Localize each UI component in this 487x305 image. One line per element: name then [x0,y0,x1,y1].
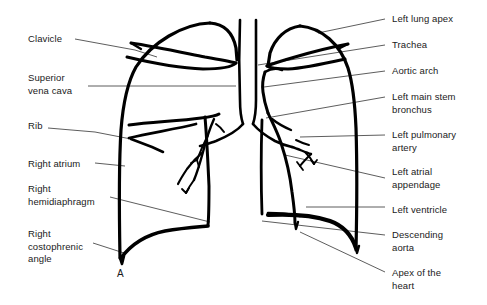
label-apex-of-the-heart: Apex of the heart [392,267,441,292]
left-hemidiaphragm [268,215,356,248]
label-left-ventricle: Left ventricle [392,204,447,217]
right-pa-branch-tips [182,188,189,193]
label-right-costophrenic-angle: Right costophrenic angle [28,228,83,266]
right-hilum-spur [216,124,224,132]
leader-apex-of-the-heart [300,232,385,272]
label-trachea: Trachea [392,39,427,52]
left-hilum-spur [296,140,309,145]
left-cardiophrenic-angle [295,222,298,229]
left-mediastinal-lower-border [261,120,262,214]
label-left-lung-apex: Left lung apex [392,13,453,26]
leader-left-main-stem-bronchus [266,97,385,118]
right-lung-apex [210,23,237,60]
label-descending-aorta: Descending aorta [392,229,443,254]
label-left-atrial-appendage: Left atrial appendage [392,166,440,191]
label-aortic-arch: Aortic arch [392,65,438,78]
left-costophrenic-angle [356,246,359,253]
left-pulmonary-artery-trunk [292,147,311,154]
right-rib-anterior [131,139,163,152]
leader-right-hemidiaphragm [110,197,210,222]
right-rib-mid-lower [129,124,196,138]
label-rib: Rib [28,120,43,133]
leader-left-pulmonary-artery [300,135,385,137]
label-left-main-stem-bronchus: Left main stem bronchus [392,91,456,116]
trachea-right-wall [253,20,256,124]
aortic-arch [263,72,268,113]
leader-rib [48,128,131,139]
leader-aortic-arch [264,71,385,87]
label-right-hemidiaphragm: Right hemidiaphragm [28,183,95,208]
leader-descending-aorta [262,221,385,235]
label-right-atrium: Right atrium [28,158,80,171]
panel-marker-a: A [117,268,124,279]
trachea-left-wall [239,20,243,124]
right-hemidiaphragm [121,226,208,258]
leader-left-lung-apex [318,19,385,33]
right-pulmonary-artery-trunk [194,119,214,180]
figure-canvas: Clavicle Superior vena cava Rib Right at… [0,0,487,305]
label-superior-vena-cava: Superior vena cava [28,72,72,97]
label-left-pulmonary-artery: Left pulmonary artery [392,129,456,154]
left-clavicle [267,44,348,66]
leader-lines [48,19,385,272]
label-clavicle: Clavicle [28,33,62,46]
